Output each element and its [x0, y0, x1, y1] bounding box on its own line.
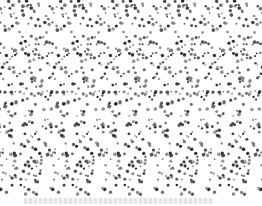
- caption-text: [24, 198, 214, 204]
- stereogram-image: [0, 0, 262, 196]
